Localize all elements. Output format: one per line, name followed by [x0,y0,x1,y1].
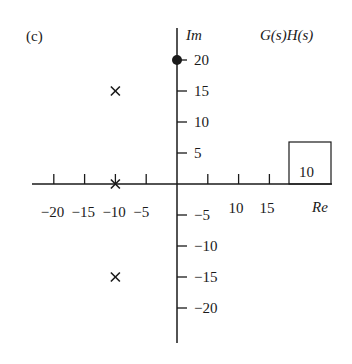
re-ticks: −20−15−10−51015 [41,174,275,220]
pole-zero-diagram: (c) Im G(s)H(s) Re 10 −20−15−10−51015 20… [0,0,352,364]
zero-dot-icon [172,55,182,65]
im-tick-label: −5 [194,207,210,223]
re-tick-label: −15 [72,204,95,220]
im-tick-label: 15 [194,83,209,99]
panel-label: (c) [26,28,43,45]
im-tick-label: −15 [194,269,217,285]
re-tick-label: −10 [102,204,125,220]
im-tick-label: 20 [194,52,209,68]
im-tick-label: 10 [194,114,209,130]
pole-x-icon [111,273,120,282]
re-tick-label: 15 [259,200,274,216]
re-tick-label: −20 [41,204,64,220]
im-tick-label: −20 [194,300,217,316]
gain-box-value: 10 [299,164,314,180]
im-axis-label: Im [185,27,202,43]
im-tick-label: −10 [194,238,217,254]
zeros [172,55,182,65]
re-tick-label: −5 [133,204,149,220]
pole-x-icon [111,87,120,96]
re-axis-label: Re [311,199,328,215]
im-tick-label: 5 [194,145,202,161]
function-label: G(s)H(s) [260,27,313,44]
re-tick-label: 10 [229,200,244,216]
